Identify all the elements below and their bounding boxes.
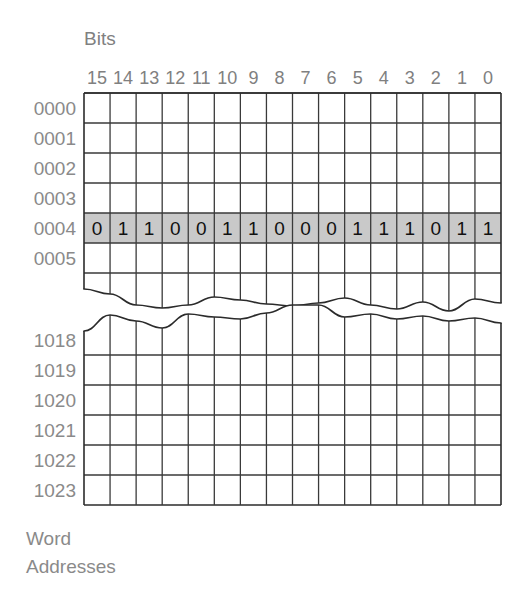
bit-number-13: 13 [139, 68, 159, 88]
bit-number-3: 3 [405, 68, 415, 88]
bit-cell-value-9: 1 [248, 218, 259, 239]
bit-cell-value-4: 1 [378, 218, 389, 239]
bit-number-7: 7 [301, 68, 311, 88]
word-address-1021: 1021 [34, 420, 76, 441]
bit-number-4: 4 [379, 68, 389, 88]
bit-cell-value-14: 1 [118, 218, 129, 239]
bit-number-0: 0 [483, 68, 493, 88]
bit-cell-value-5: 1 [352, 218, 363, 239]
bit-cell-value-8: 0 [274, 218, 285, 239]
bits-header-label: Bits [84, 28, 116, 49]
word-address-1019: 1019 [34, 360, 76, 381]
bit-number-11: 11 [192, 68, 211, 88]
word-address-0000: 0000 [34, 98, 76, 119]
bit-cell-value-11: 0 [196, 218, 207, 239]
word-addresses-label-line2: Addresses [26, 556, 116, 577]
word-address-0004: 0004 [34, 218, 77, 239]
word-address-0001: 0001 [34, 128, 76, 149]
word-address-1020: 1020 [34, 390, 76, 411]
bit-number-5: 5 [353, 68, 363, 88]
bit-number-6: 6 [327, 68, 337, 88]
bit-number-10: 10 [217, 68, 237, 88]
bit-cell-value-7: 0 [300, 218, 311, 239]
word-address-0002: 0002 [34, 158, 76, 179]
bit-number-14: 14 [113, 68, 133, 88]
word-addresses-label-line1: Word [26, 528, 71, 549]
bit-number-1: 1 [457, 68, 467, 88]
word-address-1018: 1018 [34, 330, 76, 351]
bit-cell-value-12: 0 [170, 218, 181, 239]
bit-cell-value-15: 0 [92, 218, 103, 239]
bit-cell-value-13: 1 [144, 218, 155, 239]
word-address-1022: 1022 [34, 450, 76, 471]
bit-number-8: 8 [274, 68, 284, 88]
word-address-0003: 0003 [34, 188, 76, 209]
bit-cell-value-2: 0 [431, 218, 442, 239]
word-address-1023: 1023 [34, 480, 76, 501]
bit-cell-value-6: 0 [326, 218, 337, 239]
memory-word-diagram: Bits 1514131211109876543210 000000010002… [0, 0, 523, 604]
bit-cell-value-3: 1 [404, 218, 415, 239]
bit-cell-value-10: 1 [222, 218, 233, 239]
bit-number-2: 2 [431, 68, 441, 88]
bit-number-15: 15 [87, 68, 107, 88]
diagram-canvas: Bits 1514131211109876543210 000000010002… [0, 0, 523, 604]
bottom-memory-block: 101810191020102110221023 [34, 305, 501, 505]
bit-cell-value-1: 1 [457, 218, 468, 239]
bit-cell-value-0: 1 [483, 218, 494, 239]
bit-number-9: 9 [248, 68, 258, 88]
bit-number-12: 12 [165, 68, 185, 88]
word-address-0005: 0005 [34, 248, 76, 269]
top-memory-block: 0000000100020003000400050110011000111011 [34, 93, 501, 311]
